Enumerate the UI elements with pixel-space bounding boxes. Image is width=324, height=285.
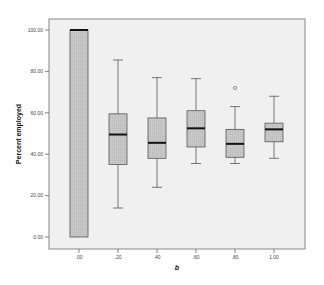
iqr-box <box>265 123 283 142</box>
x-tick-label: 1.00 <box>269 254 279 260</box>
x-tick-label: .40 <box>154 254 161 260</box>
box-.00 <box>70 30 88 237</box>
iqr-box <box>109 114 127 165</box>
iqr-box <box>70 30 88 237</box>
y-tick-label: 100.00 <box>28 27 44 33</box>
y-tick-label: 80.00 <box>30 68 43 74</box>
x-axis-title: b <box>175 264 180 271</box>
y-tick-label: 60.00 <box>30 110 43 116</box>
x-tick-label: .80 <box>232 254 239 260</box>
x-tick-label: .20 <box>115 254 122 260</box>
x-axis: .00.20.40.60.801.00 <box>76 249 280 260</box>
y-tick-label: 0.00 <box>33 234 43 240</box>
y-tick-label: 20.00 <box>30 192 43 198</box>
box-plot-chart: 100.0080.0060.0040.0020.000.00 .00.20.40… <box>0 0 324 285</box>
x-tick-label: .00 <box>76 254 83 260</box>
iqr-box <box>148 118 166 158</box>
y-axis-title: Percent employed <box>15 104 23 164</box>
y-tick-label: 40.00 <box>30 151 43 157</box>
y-axis: 100.0080.0060.0040.0020.000.00 <box>28 27 49 240</box>
x-tick-label: .60 <box>193 254 200 260</box>
